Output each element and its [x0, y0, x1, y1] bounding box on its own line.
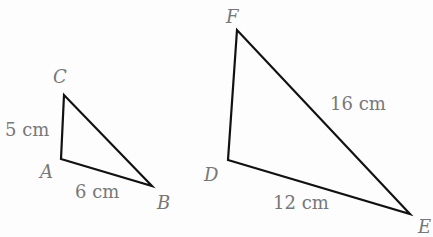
vertex-label-f: F	[226, 8, 239, 26]
vertex-label-b: B	[157, 194, 170, 212]
vertex-label-e: E	[418, 218, 431, 236]
triangles-canvas	[0, 0, 433, 237]
vertex-label-d: D	[204, 166, 218, 184]
vertex-label-a: A	[40, 163, 53, 181]
vertex-label-c: C	[53, 68, 67, 86]
side-label-de: 12 cm	[273, 194, 329, 212]
triangle-abc	[61, 95, 152, 186]
triangle-def	[228, 30, 410, 214]
similar-triangles-diagram: C A B 5 cm 6 cm F D E 16 cm 12 cm	[0, 0, 433, 237]
side-label-ab: 6 cm	[75, 183, 119, 201]
side-label-fe: 16 cm	[330, 95, 386, 113]
side-label-ac: 5 cm	[5, 121, 49, 139]
